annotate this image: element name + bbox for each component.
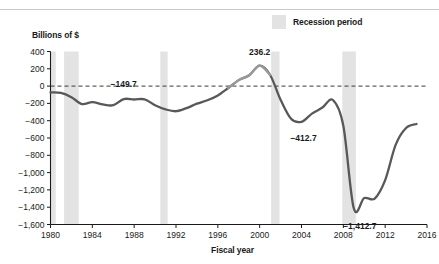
x-tick-label: 2000 (250, 230, 269, 240)
y-tick-label: −1,000 (18, 168, 45, 178)
recession-1980 (51, 52, 56, 225)
x-tick-label: 1996 (208, 230, 227, 240)
y-tick-label: 400 (30, 47, 44, 57)
label-2004: −412.7 (290, 133, 317, 143)
x-tick-label: 2016 (418, 230, 437, 240)
chart-figure: Recession period Billions of $ 4002000−2… (0, 0, 439, 264)
recession-1990-91 (160, 52, 167, 225)
y-tick-label: −400 (25, 116, 44, 126)
recession-1981-82 (64, 52, 79, 225)
x-tick-label: 2012 (376, 230, 395, 240)
x-tick-label: 1992 (167, 230, 186, 240)
x-axis-ticks-group: 1980198419881992199620002004200820122016 (41, 225, 437, 240)
x-axis-title-wrap: Fiscal year (0, 245, 439, 255)
data-series-line (51, 66, 417, 212)
x-axis-title: Fiscal year (211, 245, 254, 255)
y-tick-label: 200 (30, 64, 44, 74)
y-tick-label: −1,200 (18, 185, 45, 195)
data-labels-group: −149.7236.2−412.7−1,412.7 (111, 47, 377, 232)
x-tick-label: 1984 (83, 230, 102, 240)
x-tick-label: 2004 (292, 230, 311, 240)
y-tick-label: −200 (25, 98, 44, 108)
label-2000: 236.2 (249, 47, 271, 57)
y-tick-label: −1,600 (18, 220, 45, 230)
y-tick-label: 0 (40, 81, 45, 91)
label-1987: −149.7 (111, 79, 138, 89)
plot-area: 4002000−200−400−600−800−1,000−1,200−1,40… (0, 0, 439, 264)
x-tick-label: 1980 (41, 230, 60, 240)
y-tick-label: −1,400 (18, 202, 45, 212)
y-tick-label: −600 (25, 133, 44, 143)
data-series-line-highlight (228, 66, 270, 88)
x-tick-label: 1988 (125, 230, 144, 240)
y-axis-ticks-group: 4002000−200−400−600−800−1,000−1,200−1,40… (18, 47, 50, 230)
label-2009: −1,412.7 (343, 221, 377, 231)
y-tick-label: −800 (25, 150, 44, 160)
